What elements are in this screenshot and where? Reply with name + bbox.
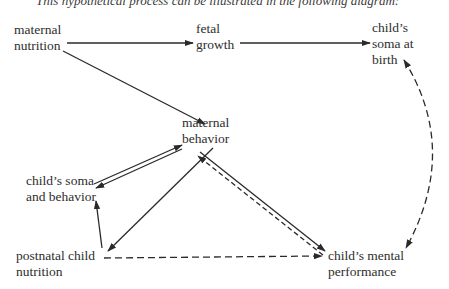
node-maternal-behavior: maternal behavior — [182, 115, 229, 147]
node-label: maternal — [14, 22, 61, 38]
edge-behavior-to-postnatal — [108, 148, 213, 251]
node-postnatal-nutrition: postnatal child nutrition — [16, 248, 95, 280]
node-label: maternal — [182, 115, 229, 131]
node-label: fetal — [196, 21, 234, 37]
edge-postnatal-to-soma — [96, 201, 102, 248]
node-label: behavior — [182, 131, 229, 147]
node-label: and behavior — [26, 189, 96, 205]
node-label: nutrition — [16, 264, 95, 280]
node-label: child’s soma — [26, 173, 96, 189]
node-mental-performance: child’s mental performance — [328, 248, 404, 280]
node-soma-at-birth: child’s soma at birth — [372, 20, 414, 68]
edge-behavior-to-soma — [96, 149, 182, 188]
node-soma-and-behavior: child’s soma and behavior — [26, 173, 96, 205]
edge-postnatal-to-mental — [104, 256, 322, 258]
node-label: growth — [196, 37, 234, 53]
node-label: nutrition — [14, 38, 61, 54]
node-label: child’s — [372, 20, 414, 36]
edge-behavior-to-mental — [200, 152, 325, 251]
node-maternal-nutrition: maternal nutrition — [14, 22, 61, 54]
edge-soma-to-behavior — [94, 145, 182, 184]
edge-soma-birth-mental-arc — [404, 60, 433, 248]
node-fetal-growth: fetal growth — [196, 21, 234, 53]
node-label: birth — [372, 52, 414, 68]
edge-nutrition-to-behavior — [63, 51, 205, 124]
node-label: performance — [328, 264, 404, 280]
node-label: child’s mental — [328, 248, 404, 264]
node-label: soma at — [372, 36, 414, 52]
edge-mental-to-behavior — [198, 156, 323, 255]
node-label: postnatal child — [16, 248, 95, 264]
